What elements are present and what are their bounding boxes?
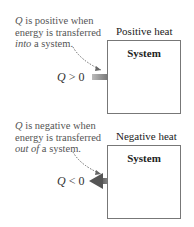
heat-label-positive: Positive heat — [116, 25, 173, 37]
system-box-positive: System — [107, 40, 181, 114]
dotted-pointer-1 — [73, 47, 101, 70]
arrow-out-of-system-icon — [89, 173, 103, 189]
system-title: System — [108, 152, 180, 164]
heat-label-negative: Negative heat — [116, 130, 177, 142]
system-title: System — [108, 47, 180, 59]
note-negative: Q is negative when energy is transferred… — [15, 120, 101, 155]
condition-negative: Q < 0 — [57, 174, 84, 189]
system-box-negative: System — [107, 145, 181, 219]
condition-positive: Q > 0 — [57, 70, 84, 85]
note-positive: Q is positive when energy is transferred… — [15, 15, 101, 50]
